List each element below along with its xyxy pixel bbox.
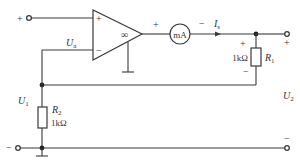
- ua-label: Ua: [66, 37, 77, 50]
- resistor-r1: [251, 48, 261, 66]
- opamp-gain-label: ∞: [121, 29, 128, 40]
- input-plus-terminal: [27, 16, 32, 21]
- r1-plus-sign: +: [240, 38, 246, 49]
- resistor-r2: [38, 107, 47, 128]
- input-minus-sign: −: [6, 142, 12, 153]
- opamp-minus-label: −: [96, 45, 102, 56]
- output-minus-terminal: [285, 146, 290, 151]
- r1-minus-sign: −: [243, 66, 249, 77]
- u2-label: U2: [283, 90, 294, 103]
- is-label: Is: [213, 18, 220, 31]
- opamp-out-plus: +: [153, 19, 159, 30]
- input-minus-terminal: [16, 146, 21, 151]
- ammeter-label: mA: [173, 30, 187, 40]
- output-plus-terminal: [285, 32, 290, 37]
- r1-value: 1kΩ: [232, 53, 248, 63]
- circuit-diagram: + + − ∞ Ua + mA − Is + + − 1kΩ R1 R2 1kΩ…: [0, 0, 300, 164]
- output-plus-sign: +: [284, 37, 290, 48]
- r2-value: 1kΩ: [51, 118, 67, 128]
- meter-minus: −: [199, 18, 205, 29]
- opamp-plus-label: +: [96, 13, 102, 24]
- current-arrow-icon: [215, 32, 221, 37]
- input-plus-sign: +: [17, 13, 23, 24]
- r2-label: R2: [51, 104, 62, 117]
- r1-label: R1: [264, 52, 275, 65]
- u1-label: U1: [18, 95, 29, 108]
- output-minus-sign: −: [284, 133, 290, 144]
